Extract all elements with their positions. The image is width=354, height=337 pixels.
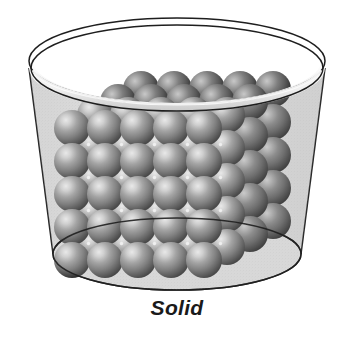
solid-state-figure: Solid: [0, 0, 354, 337]
figure-caption: Solid: [0, 296, 354, 320]
solid-particle-illustration: [0, 0, 354, 337]
